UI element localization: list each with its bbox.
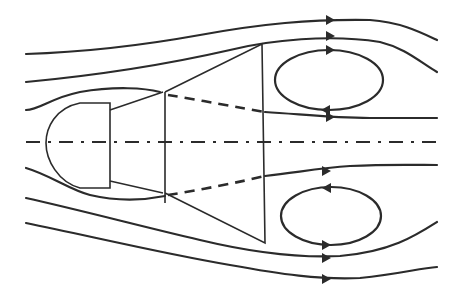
streamline-lower-middle [26,198,437,256]
arrow-icon [326,45,335,55]
arrow-icon [322,274,331,284]
arrow-icon [322,240,331,250]
flow-diagram [0,0,459,301]
streamline-upper-middle [26,38,437,82]
arrow-icon [322,183,331,193]
upper-shear-layer [168,95,265,112]
arrow-icon [322,253,331,263]
upper-vortex [275,50,383,110]
streamline-lower-inner [26,168,165,200]
lower-vortex [281,187,381,245]
arrow-icon [326,112,335,122]
arrowheads [321,15,335,284]
hemispherical-nose [46,103,110,188]
large-frustum [165,44,265,243]
lower-shear-layer [168,176,265,195]
streamline-lower-wake [265,165,437,176]
arrow-icon [326,31,335,41]
streamline-upper-wake [265,112,437,118]
arrow-icon [326,15,335,25]
